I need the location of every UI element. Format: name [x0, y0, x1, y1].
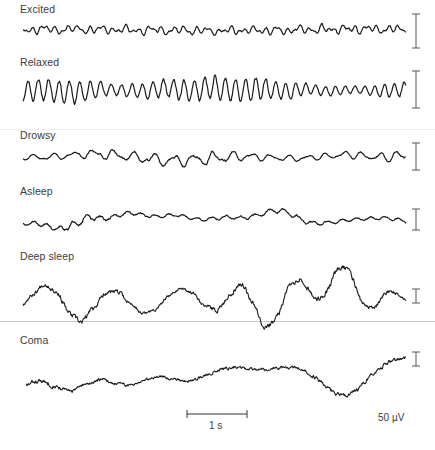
trace-excited — [23, 23, 406, 35]
trace-deep-sleep — [23, 266, 406, 330]
time-scale-label: 1 s — [209, 420, 222, 431]
scale-bar-coma — [412, 352, 420, 366]
scale-bar-asleep — [412, 209, 420, 230]
trace-coma — [26, 357, 406, 397]
amplitude-scale-bars — [412, 14, 420, 366]
scale-bar-relaxed — [412, 71, 420, 108]
scale-bar-excited — [412, 14, 420, 48]
scale-bar-deep-sleep — [412, 289, 420, 303]
trace-drowsy — [23, 150, 406, 167]
scale-bar-drowsy — [412, 143, 420, 170]
trace-relaxed — [23, 75, 406, 104]
time-scale-bar — [187, 410, 247, 418]
amplitude-scale-label: 50 µV — [378, 412, 404, 423]
eeg-chart — [0, 0, 435, 450]
eeg-traces — [23, 23, 406, 397]
trace-asleep — [23, 209, 406, 231]
